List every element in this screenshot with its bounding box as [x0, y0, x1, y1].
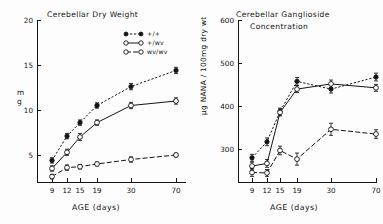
chart-subtitle-right: Concentration: [250, 22, 308, 31]
chart-panel-ganglioside: Cerebellar Ganglioside Concentration 300…: [192, 0, 383, 224]
x-tick-group-left: 91215193070: [50, 178, 181, 195]
y-tick-group-right: 300400500600: [220, 16, 242, 155]
x-tick-group-right: 91215193070: [250, 178, 381, 195]
x-axis-label-right: AGE (days): [270, 203, 318, 212]
dry-weight-svg: Cerebellar Dry Weight 5101520 m g 912151…: [0, 0, 192, 224]
data-point-open-circle: [50, 166, 55, 171]
y-tick-label: 20: [24, 16, 34, 25]
data-point-open-circle: [129, 103, 134, 108]
data-point-open-circle: [174, 99, 179, 104]
plot-area-left: [50, 67, 179, 179]
y-axis-right: 300400500600 µg NANA / 100mg dry wt: [199, 16, 242, 182]
data-point-open-circle: [65, 165, 70, 170]
y-tick-label: 400: [220, 102, 234, 111]
x-tick-label: 12: [262, 186, 271, 195]
x-tick-label: 9: [50, 186, 55, 195]
series-: [50, 67, 178, 163]
y-tick-label: 600: [220, 16, 234, 25]
x-axis-label-left: AGE (days): [72, 203, 120, 212]
figure-container: Cerebellar Dry Weight 5101520 m g 912151…: [0, 0, 383, 224]
data-point-open-circle: [295, 157, 300, 162]
data-point-open-circle: [278, 110, 283, 115]
x-tick-label: 70: [171, 186, 181, 195]
data-point-filled-circle: [95, 103, 99, 107]
x-tick-label: 19: [292, 186, 302, 195]
x-tick-label: 15: [275, 186, 284, 195]
legend-marker-open-circle: [139, 41, 143, 45]
ganglioside-svg: Cerebellar Ganglioside Concentration 300…: [192, 0, 383, 224]
series-line: [252, 77, 376, 158]
legend-marker-open-circle: [139, 50, 143, 54]
data-point-open-circle: [129, 157, 134, 162]
x-axis-right: 91215193070 AGE (days): [238, 178, 381, 212]
data-point-open-circle: [329, 82, 334, 87]
legend-label: +/wv: [147, 39, 164, 46]
data-point-open-circle: [295, 87, 300, 92]
series-wvwv: [50, 153, 179, 179]
series-wv: [250, 80, 379, 170]
data-point-open-circle: [265, 171, 270, 176]
y-axis-label-right: µg NANA / 100mg dry wt: [199, 17, 208, 115]
y-tick-label: 10: [24, 106, 34, 115]
x-tick-label: 19: [92, 186, 102, 195]
y-tick-label: 500: [220, 59, 234, 68]
plot-area-right: [250, 73, 379, 176]
data-point-open-circle: [95, 162, 100, 167]
x-tick-label: 30: [326, 186, 336, 195]
y-tick-label: 15: [24, 61, 33, 70]
legend-left: +/++/wvwv/wv: [124, 30, 168, 55]
legend-marker-open-circle: [124, 50, 128, 54]
y-axis-left: 5101520 m g: [17, 16, 41, 182]
series-line: [52, 70, 176, 160]
series-wvwv: [250, 123, 379, 176]
series-line: [52, 155, 176, 177]
legend-marker-filled-circle: [139, 32, 143, 36]
chart-title-right: Cerebellar Ganglioside: [236, 10, 330, 19]
data-point-filled-circle: [295, 79, 299, 83]
data-point-filled-circle: [174, 68, 178, 72]
y-axis-label-left-char1: m: [17, 88, 25, 97]
series-line: [252, 84, 376, 166]
x-tick-label: 12: [62, 186, 71, 195]
data-point-filled-circle: [265, 140, 269, 144]
y-tick-label: 300: [220, 145, 234, 154]
chart-title-left: Cerebellar Dry Weight: [47, 10, 138, 19]
x-tick-label: 9: [250, 186, 255, 195]
data-point-open-circle: [329, 127, 334, 132]
legend-marker-open-circle: [124, 41, 128, 45]
x-tick-label: 30: [126, 186, 136, 195]
y-tick-group-left: 5101520: [24, 16, 41, 160]
x-axis-left: 91215193070 AGE (days): [37, 178, 186, 212]
chart-panel-dry-weight: Cerebellar Dry Weight 5101520 m g 912151…: [0, 0, 192, 224]
data-point-open-circle: [65, 150, 70, 155]
data-point-open-circle: [374, 132, 379, 137]
data-point-open-circle: [250, 164, 255, 169]
data-point-open-circle: [374, 85, 379, 90]
data-point-open-circle: [250, 170, 255, 175]
data-point-filled-circle: [129, 84, 133, 88]
y-tick-label: 5: [28, 151, 33, 160]
data-point-filled-circle: [78, 120, 82, 124]
data-point-open-circle: [95, 120, 100, 125]
data-point-open-circle: [174, 153, 179, 158]
data-point-open-circle: [278, 148, 283, 153]
data-point-open-circle: [78, 164, 83, 169]
data-point-open-circle: [78, 135, 83, 140]
legend-label: +/+: [147, 30, 160, 37]
data-point-filled-circle: [50, 158, 54, 162]
data-point-open-circle: [50, 174, 55, 179]
x-tick-label: 15: [75, 186, 84, 195]
legend-label: wv/wv: [147, 48, 168, 55]
data-point-filled-circle: [65, 134, 69, 138]
data-point-filled-circle: [250, 156, 254, 160]
series-line: [52, 101, 176, 169]
legend-marker-filled-circle: [124, 32, 128, 36]
y-axis-label-left-char2: g: [17, 97, 22, 106]
data-point-filled-circle: [374, 75, 378, 79]
data-point-open-circle: [265, 161, 270, 166]
x-tick-label: 70: [371, 186, 381, 195]
